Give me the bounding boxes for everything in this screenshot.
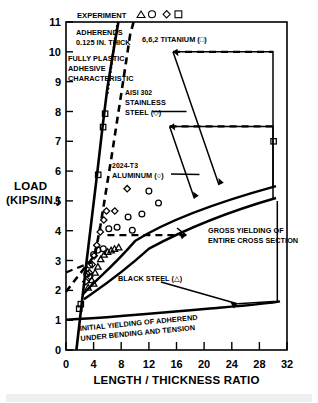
x-tick-label-8: 8: [118, 358, 124, 370]
y-axis-title-line1: LOAD: [14, 180, 47, 192]
x-tick-label-20: 20: [198, 358, 210, 370]
y-tick-label-0: 0: [55, 344, 61, 356]
chart-svg: 11 10 9 8 7 6 5 4 3 2 1 0 0 4 8 12 16 20…: [0, 0, 318, 403]
y-tick-label-11: 11: [49, 16, 61, 28]
y-tick-label-9: 9: [55, 76, 61, 88]
y-tick-label-2: 2: [55, 284, 61, 296]
adherends-line-1: ADHERENDS: [76, 28, 123, 37]
annotation-black-steel: BLACK STEEL (△): [118, 274, 183, 283]
aluminum-line-1: 2024-T3: [112, 162, 138, 169]
x-tick-label-16: 16: [170, 358, 182, 370]
aluminum-line-2: ALUMINUM (○): [112, 171, 164, 180]
adherends-line-2: 0.125 IN. THICK: [76, 38, 131, 47]
x-tick-label-28: 28: [253, 358, 265, 370]
stainless-line-3: STEEL (◇): [125, 108, 162, 117]
stainless-line-2: STAINLESS: [125, 98, 166, 107]
legend-title: EXPERIMENT: [77, 11, 127, 20]
x-tick-label-32: 32: [281, 358, 293, 370]
figure-container: 11 10 9 8 7 6 5 4 3 2 1 0 0 4 8 12 16 20…: [0, 0, 318, 403]
stainless-line-1: AISI 302: [125, 89, 152, 96]
gross-yielding-line-1: GROSS YIELDING OF: [208, 226, 284, 235]
y-tick-label-10: 10: [49, 46, 61, 58]
x-tick-label-4: 4: [91, 358, 98, 370]
legend: EXPERIMENT: [77, 11, 182, 20]
gross-yielding-line-2: ENTIRE CROSS SECTION: [208, 236, 298, 245]
x-tick-label-12: 12: [143, 358, 155, 370]
x-tick-label-0: 0: [63, 358, 69, 370]
y-tick-label-8: 8: [55, 106, 61, 118]
legend-triangle-icon: [137, 11, 145, 18]
y-tick-label-3: 3: [55, 255, 61, 267]
fully-plastic-line-1: FULLY PLASTIC: [68, 54, 125, 63]
fully-plastic-line-3: CHARACTERISTIC: [68, 74, 134, 83]
x-tick-labels: 0 4 8 12 16 20 24 28 32: [63, 358, 293, 370]
y-tick-label-1: 1: [55, 314, 61, 326]
page-caption-remnant: [6, 394, 312, 402]
y-axis-title-line2: (KIPS/IN.): [6, 194, 60, 206]
x-tick-label-24: 24: [226, 358, 239, 370]
y-tick-labels: 11 10 9 8 7 6 5 4 3 2 1 0: [49, 16, 62, 356]
y-tick-label-6: 6: [55, 165, 61, 177]
fully-plastic-line-2: ADHESIVE: [68, 64, 106, 73]
x-axis-title: LENGTH / THICKNESS RATIO: [93, 374, 259, 386]
y-tick-label-7: 7: [55, 135, 61, 147]
legend-circle-icon: [149, 11, 156, 18]
annotation-titanium: 6,6,2 TITANIUM (□): [142, 35, 207, 44]
legend-diamond-icon: [163, 11, 170, 18]
y-tick-label-4: 4: [55, 225, 62, 237]
legend-square-icon: [175, 11, 182, 18]
